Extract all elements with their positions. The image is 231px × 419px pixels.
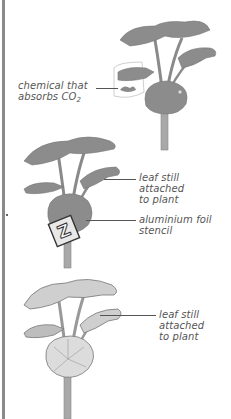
label-leaf-attached-3: leaf still attached to plant	[159, 309, 204, 342]
leader-line-leaf-2	[104, 179, 136, 180]
leader-line-leaf-3	[100, 315, 156, 316]
leaf	[80, 309, 121, 333]
leaf	[24, 279, 117, 309]
leaf	[24, 183, 64, 194]
leaf	[120, 21, 210, 46]
plant-2-illustration: Z	[18, 133, 128, 268]
label-co2-chemical: chemical that absorbs CO2	[18, 80, 88, 106]
leaf	[46, 336, 94, 377]
label-leaf-attached-2: leaf still attached to plant	[139, 172, 184, 205]
leader-line-foil	[86, 220, 136, 221]
leaf	[145, 81, 187, 114]
plant-1-illustration	[110, 10, 230, 150]
leaf	[80, 167, 120, 189]
plant-3-illustration	[18, 275, 128, 419]
label-foil-stencil: aluminium foil stencil	[139, 214, 212, 236]
leaf	[118, 68, 154, 81]
leader-line-co2	[96, 88, 118, 89]
leaf	[24, 325, 64, 338]
leaf	[24, 137, 115, 165]
stray-mark	[6, 214, 8, 216]
left-border-bar	[2, 0, 5, 419]
co2-chemical	[120, 86, 136, 92]
leaf	[178, 48, 216, 68]
